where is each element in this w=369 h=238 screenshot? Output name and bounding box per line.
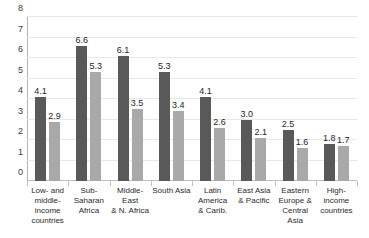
bar: 5.3 bbox=[159, 72, 170, 181]
x-axis-category-label-line: & Pacific bbox=[234, 196, 273, 206]
x-axis-category-label: Sub-SaharanAfrica bbox=[68, 186, 109, 236]
bar-value-label: 2.5 bbox=[282, 119, 295, 129]
bar-value-label: 5.3 bbox=[90, 61, 103, 71]
bar: 5.3 bbox=[90, 72, 101, 181]
y-axis-label: 1 bbox=[18, 147, 23, 156]
bar-group: 3.02.1 bbox=[233, 17, 274, 181]
bar-fill bbox=[200, 97, 211, 181]
bar-group: 4.12.9 bbox=[27, 17, 68, 181]
bar-fill bbox=[159, 72, 170, 181]
bar: 1.8 bbox=[324, 144, 335, 181]
x-axis-category-label: South Asia bbox=[151, 186, 192, 236]
y-axis-tick-labels: 012345678 bbox=[0, 17, 23, 181]
bar: 2.9 bbox=[49, 122, 60, 181]
x-axis-category-label-line: Europe & bbox=[276, 196, 315, 206]
x-axis-tick bbox=[357, 181, 358, 186]
bar-fill bbox=[241, 120, 252, 182]
y-axis-label: 6 bbox=[18, 45, 23, 54]
x-axis-category-label: EasternEurope &Central Asia bbox=[275, 186, 316, 236]
bar-value-label: 6.1 bbox=[117, 45, 130, 55]
x-axis-category-label-line: Sub-Saharan bbox=[69, 186, 108, 206]
bar-value-label: 2.6 bbox=[213, 117, 226, 127]
x-axis-category-label: Middle-East& N. Africa bbox=[110, 186, 151, 236]
bar-value-label: 3.0 bbox=[241, 109, 254, 119]
x-axis-category-label-line: countries bbox=[28, 216, 67, 226]
plot-area: 4.12.96.65.36.13.55.33.44.12.63.02.12.51… bbox=[27, 17, 357, 181]
x-axis-category-label-line: & N. Africa bbox=[111, 206, 150, 216]
bar-value-label: 3.4 bbox=[172, 100, 185, 110]
x-axis-category-label-line: East Asia bbox=[234, 186, 273, 196]
bar-fill bbox=[76, 46, 87, 181]
x-axis-category-label-line: Latin bbox=[193, 186, 232, 196]
x-axis-category-label-line: middle- bbox=[28, 196, 67, 206]
bar-fill bbox=[118, 56, 129, 181]
x-axis-category-label-line: countries bbox=[317, 206, 356, 216]
bar-value-label: 2.1 bbox=[255, 127, 268, 137]
bar-value-label: 3.5 bbox=[131, 98, 144, 108]
bar-group: 2.51.6 bbox=[275, 17, 316, 181]
x-axis-category-label: Low- andmiddle-incomecountries bbox=[27, 186, 68, 236]
bar: 3.4 bbox=[173, 111, 184, 181]
bar-group: 6.13.5 bbox=[110, 17, 151, 181]
bar-value-label: 1.8 bbox=[323, 133, 336, 143]
bar-value-label: 4.1 bbox=[34, 86, 47, 96]
bar: 1.7 bbox=[338, 146, 349, 181]
bar-fill bbox=[35, 97, 46, 181]
y-axis-label: 8 bbox=[18, 4, 23, 13]
bar-value-label: 2.9 bbox=[48, 111, 61, 121]
bar-value-label: 4.1 bbox=[199, 86, 212, 96]
bar-fill bbox=[338, 146, 349, 181]
x-axis-category-labels: Low- andmiddle-incomecountriesSub-Sahara… bbox=[27, 186, 357, 236]
x-axis-category-label-line: Central Asia bbox=[276, 206, 315, 226]
bar-groups: 4.12.96.65.36.13.55.33.44.12.63.02.12.51… bbox=[27, 17, 357, 181]
bar: 4.1 bbox=[200, 97, 211, 181]
bar-value-label: 5.3 bbox=[158, 61, 171, 71]
x-axis-category-label-line: Africa bbox=[69, 206, 108, 216]
x-axis-category-label-line: High-income bbox=[317, 186, 356, 206]
bar: 3.0 bbox=[241, 120, 252, 182]
bar-value-label: 1.6 bbox=[296, 137, 309, 147]
x-axis-category-label: LatinAmerica& Carib. bbox=[192, 186, 233, 236]
x-axis-category-label-line: America bbox=[193, 196, 232, 206]
bar-fill bbox=[255, 138, 266, 181]
bar: 1.6 bbox=[297, 148, 308, 181]
bar-group: 1.81.7 bbox=[316, 17, 357, 181]
y-axis-label: 5 bbox=[18, 65, 23, 74]
bar-fill bbox=[324, 144, 335, 181]
bar-fill bbox=[132, 109, 143, 181]
bar-fill bbox=[49, 122, 60, 181]
bar: 6.1 bbox=[118, 56, 129, 181]
x-axis-category-label-line: Eastern bbox=[276, 186, 315, 196]
y-axis-label: 7 bbox=[18, 24, 23, 33]
bar: 3.5 bbox=[132, 109, 143, 181]
y-axis-label: 3 bbox=[18, 106, 23, 115]
bar: 2.5 bbox=[283, 130, 294, 181]
bar-group: 6.65.3 bbox=[68, 17, 109, 181]
x-axis-category-label: High-incomecountries bbox=[316, 186, 357, 236]
x-axis-category-label-line: South Asia bbox=[152, 186, 191, 196]
x-axis-category-label-line: Low- and bbox=[28, 186, 67, 196]
bar: 2.6 bbox=[214, 128, 225, 181]
y-axis-label: 4 bbox=[18, 86, 23, 95]
bar: 6.6 bbox=[76, 46, 87, 181]
bar-fill bbox=[297, 148, 308, 181]
bar-value-label: 6.6 bbox=[76, 35, 89, 45]
y-axis-label: 0 bbox=[18, 168, 23, 177]
bar-fill bbox=[90, 72, 101, 181]
bar-group: 4.12.6 bbox=[192, 17, 233, 181]
bar-fill bbox=[173, 111, 184, 181]
bar-group: 5.33.4 bbox=[151, 17, 192, 181]
x-axis-category-label-line: & Carib. bbox=[193, 206, 232, 216]
x-axis-category-label-line: income bbox=[28, 206, 67, 216]
x-axis-category-label-line: Middle-East bbox=[111, 186, 150, 206]
bar: 2.1 bbox=[255, 138, 266, 181]
x-axis-category-label: East Asia& Pacific bbox=[233, 186, 274, 236]
y-axis-label: 2 bbox=[18, 127, 23, 136]
bar-fill bbox=[283, 130, 294, 181]
bar-fill bbox=[214, 128, 225, 181]
bar-chart: 012345678 4.12.96.65.36.13.55.33.44.12.6… bbox=[0, 0, 369, 238]
bar-value-label: 1.7 bbox=[337, 135, 350, 145]
bar: 4.1 bbox=[35, 97, 46, 181]
